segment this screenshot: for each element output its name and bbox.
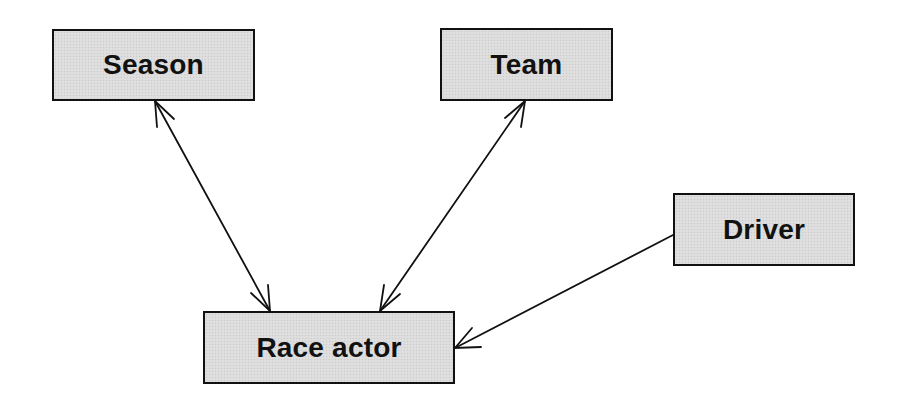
arrowhead-icon <box>251 285 270 311</box>
node-label: Driver <box>723 214 805 246</box>
edge-driver-race-actor <box>455 235 673 348</box>
node-team: Team <box>440 28 613 101</box>
arrowhead-icon <box>155 101 174 127</box>
node-label: Team <box>491 49 563 81</box>
edge-team-race-actor <box>380 101 525 311</box>
node-label: Season <box>103 49 204 81</box>
node-race-actor: Race actor <box>203 311 455 384</box>
diagram-canvas: Season Team Driver Race actor <box>0 0 907 411</box>
node-season: Season <box>52 29 255 101</box>
node-label: Race actor <box>256 332 401 364</box>
edge-season-race-actor <box>155 101 270 311</box>
node-driver: Driver <box>673 193 855 266</box>
